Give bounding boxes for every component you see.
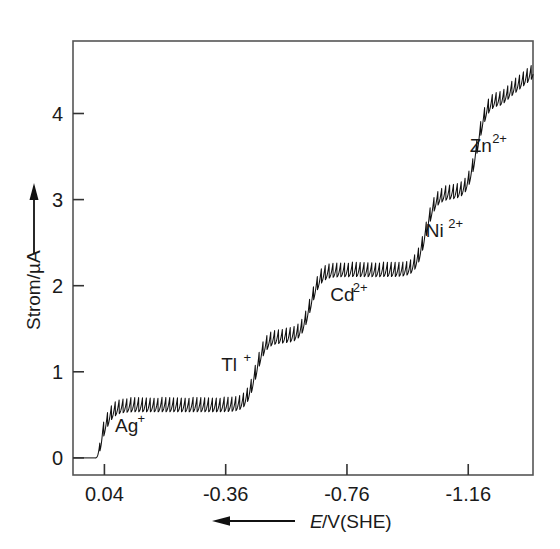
y-tick-label: 0	[52, 447, 63, 469]
polarogram-figure: 012340.04-0.36-0.76-1.16Ag+Tl+Cd2+Ni2+Zn…	[0, 0, 560, 549]
plot-frame	[73, 41, 533, 475]
y-tick-label: 3	[52, 189, 63, 211]
x-axis-title-units: /V(SHE)	[322, 511, 392, 532]
y-tick-label: 4	[52, 103, 63, 125]
series-annotation: Ag+	[115, 411, 145, 436]
series-annotation: Tl+	[221, 350, 251, 375]
x-tick-label: -0.76	[324, 483, 370, 505]
y-tick-label: 2	[52, 275, 63, 297]
series-label: Cd	[330, 284, 354, 305]
series-charge: +	[244, 350, 252, 365]
polarogram-plot: 012340.04-0.36-0.76-1.16Ag+Tl+Cd2+Ni2+Zn…	[0, 0, 560, 549]
x-tick-label: -1.16	[445, 483, 491, 505]
series-annotation: Cd2+	[330, 280, 367, 305]
y-tick-label: 1	[52, 361, 63, 383]
x-tick-label: 0.04	[85, 483, 124, 505]
series-label: Ag	[115, 415, 138, 436]
series-annotation: Ni2+	[426, 216, 463, 241]
y-axis-title-group: Strom/µA	[23, 250, 44, 330]
x-axis-arrow-head	[212, 516, 230, 526]
series-label: Zn	[470, 135, 492, 156]
series-charge: 2+	[353, 280, 368, 295]
x-tick-label: -0.36	[203, 483, 249, 505]
series-charge: 2+	[492, 131, 507, 146]
polarogram-curve	[96, 65, 533, 457]
y-axis-title: Strom/µA	[23, 250, 44, 330]
series-charge: 2+	[448, 216, 463, 231]
series-annotation: Zn2+	[470, 131, 507, 156]
series-charge: +	[137, 411, 145, 426]
series-label: Ni	[426, 220, 444, 241]
y-axis-arrow-head	[30, 183, 39, 200]
series-label: Tl	[221, 354, 237, 375]
